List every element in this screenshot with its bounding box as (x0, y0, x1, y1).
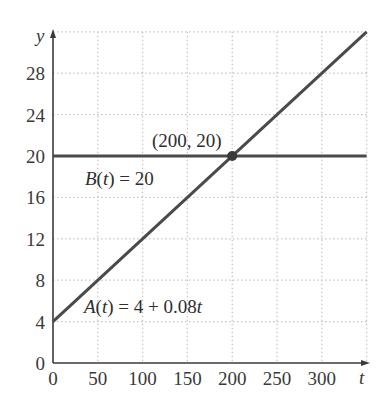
y-tick-label: 24 (26, 105, 46, 126)
b-function-name: B (85, 168, 97, 189)
y-tick-label: 8 (36, 270, 46, 291)
y-axis-arrow-icon (50, 29, 56, 38)
line-chart: 0481216202428 050100150200250300 y t (20… (0, 0, 387, 406)
series-label-b: B(t) = 20 (85, 168, 154, 190)
x-tick-label: 100 (128, 368, 157, 389)
x-axis-label: t (359, 367, 365, 388)
series-label-a: A(t) = 4 + 0.08t (82, 296, 203, 318)
y-tick-labels: 0481216202428 (26, 63, 46, 374)
x-tick-label: 50 (88, 368, 107, 389)
intersection-label: (200, 20) (152, 130, 222, 152)
x-tick-label: 300 (308, 368, 337, 389)
a-function-name: A (82, 296, 96, 317)
a-rhs-var: t (197, 296, 203, 317)
y-tick-label: 0 (36, 353, 46, 374)
y-tick-label: 20 (26, 146, 45, 167)
x-tick-label: 0 (48, 368, 58, 389)
x-tick-labels: 050100150200250300 (48, 368, 336, 389)
y-tick-label: 16 (26, 187, 45, 208)
a-rhs-const: = 4 + 0.08 (114, 296, 197, 317)
x-tick-label: 250 (263, 368, 292, 389)
y-tick-label: 12 (26, 229, 45, 250)
y-axis-label: y (34, 25, 45, 46)
b-rhs: = 20 (115, 168, 154, 189)
x-tick-label: 200 (218, 368, 247, 389)
y-tick-label: 4 (36, 312, 46, 333)
y-tick-label: 28 (26, 63, 45, 84)
x-axis-arrow-icon (361, 360, 370, 366)
intersection-point (227, 151, 237, 161)
x-tick-label: 150 (173, 368, 202, 389)
